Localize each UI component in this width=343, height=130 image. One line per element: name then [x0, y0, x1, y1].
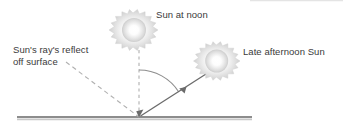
- reflected-ray: [66, 62, 139, 117]
- late-afternoon-sun-label: Late afternoon Sun: [243, 46, 325, 58]
- incident-ray: [141, 74, 207, 116]
- late-afternoon-sun-icon: [194, 42, 241, 81]
- sun-at-noon-label: Sun at noon: [156, 9, 208, 21]
- reflection-caption-line-1: Sun's ray's reflect: [13, 44, 118, 56]
- reflection-caption: Sun's ray's reflect off surface: [13, 44, 118, 67]
- reflection-caption-line-2: off surface: [13, 56, 118, 68]
- reflection-diagram: Sun at noon Late afternoon Sun Sun's ray…: [0, 0, 343, 130]
- angle-of-incidence-arc: [139, 70, 179, 92]
